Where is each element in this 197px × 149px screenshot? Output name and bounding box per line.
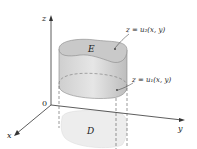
z-axis-label: z [41,14,47,23]
y-axis-label: y [177,124,183,133]
z-arrow-icon [49,15,53,21]
x-arrow-icon [14,130,20,136]
upper-surface-label: z = u₂(x, y) [125,26,165,34]
solid-region-diagram: z 0 x y E D z = u₂(x, y) z = u₁(x, y) [0,0,197,149]
lower-surface-label: z = u₁(x, y) [131,76,171,84]
origin-label: 0 [42,99,47,108]
solid-e-label: E [87,44,95,54]
y-arrow-icon [179,118,185,122]
base-d-label: D [86,126,94,136]
x-axis-label: x [7,131,12,140]
x-axis [16,105,51,134]
